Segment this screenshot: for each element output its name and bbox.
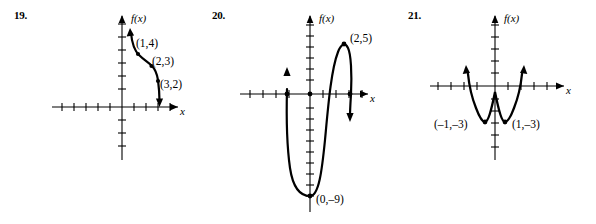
- y-axis-function-label: f(x): [131, 12, 147, 25]
- x-axis-variable-label: x: [565, 84, 571, 96]
- y-axis-function-label: f(x): [319, 12, 335, 25]
- point-label-0-neg9: (0,–9): [316, 193, 344, 206]
- x-axis-variable-label: x: [369, 92, 375, 104]
- point-label-1-4: (1,4): [136, 37, 158, 50]
- plot-point-0-neg9: [308, 194, 313, 199]
- x-intercept-dot-right: [348, 92, 353, 97]
- plot-point-2-5: [342, 42, 347, 47]
- y-axis-arrowhead: [307, 15, 314, 23]
- x-intercept-dot-left: [285, 92, 290, 97]
- y-axis-arrowhead: [492, 15, 499, 23]
- point-label-3-2: (3,2): [160, 78, 182, 91]
- point-label-2-5: (2,5): [350, 32, 372, 45]
- point-label-neg1-neg3: (–1,–3): [434, 118, 468, 131]
- y-axis-arrowhead: [119, 15, 126, 23]
- problem-19: 19.: [0, 0, 200, 224]
- curve-path: [287, 45, 352, 196]
- x-axis-arrowhead: [360, 91, 368, 98]
- x-axis-arrowhead: [170, 104, 178, 111]
- curve-right-arrowhead: [520, 65, 527, 74]
- curve-lower-arrowhead: [156, 99, 163, 107]
- plot-point-neg1-neg3: [483, 120, 488, 125]
- curve-left-arrowhead: [463, 65, 470, 74]
- plot-point-1-4: [136, 52, 140, 56]
- problem-19-graph: f(x) x (1,4) (2,3) (3,2): [0, 0, 200, 224]
- point-label-1-neg3: (1,–3): [512, 118, 540, 131]
- y-axis-function-label: f(x): [504, 12, 520, 25]
- curve-left-arrowhead: [283, 67, 290, 76]
- curve-right-arrowhead: [346, 113, 353, 122]
- plot-point-1-neg3: [503, 120, 508, 125]
- problem-21: 21.: [394, 0, 596, 224]
- figure-sheet: 19.: [0, 0, 596, 224]
- x-axis-arrowhead: [556, 83, 564, 90]
- problem-20-graph: f(x) x (2,5) (0,–9): [198, 0, 396, 224]
- curve-upper-arrowhead: [127, 28, 135, 37]
- x-intercept-dot-origin: [308, 92, 313, 97]
- x-axis-variable-label: x: [179, 105, 185, 117]
- problem-20: 20.: [198, 0, 396, 224]
- problem-21-graph: f(x) x (–1,–3) (1,–3): [394, 0, 596, 224]
- point-label-2-3: (2,3): [152, 55, 174, 68]
